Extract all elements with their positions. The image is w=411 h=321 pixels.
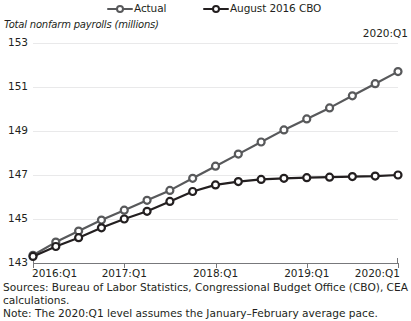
data-point-marker[interactable] [258,176,265,183]
data-point-marker[interactable] [144,208,151,215]
data-point-marker[interactable] [189,188,196,195]
data-point-marker[interactable] [303,174,310,181]
chart-footnotes: Sources: Bureau of Labor Statistics, Con… [3,281,408,321]
data-point-marker[interactable] [121,207,128,214]
data-point-marker[interactable] [326,174,333,181]
sources-line-2: calculations. [3,294,408,307]
sources-line-1: Sources: Bureau of Labor Statistics, Con… [3,281,408,294]
chart-figure: Actual August 2016 CBO Total nonfarm pay… [0,0,411,321]
data-point-marker[interactable] [372,80,379,87]
data-point-marker[interactable] [303,115,310,122]
data-point-marker[interactable] [235,151,242,158]
data-point-marker[interactable] [98,224,105,231]
data-point-marker[interactable] [98,217,105,224]
data-point-marker[interactable] [75,234,82,241]
data-point-marker[interactable] [372,173,379,180]
data-point-marker[interactable] [258,139,265,146]
note-line: Note: The 2020:Q1 level assumes the Janu… [3,307,408,320]
data-point-marker[interactable] [349,92,356,99]
data-point-marker[interactable] [166,198,173,205]
data-point-marker[interactable] [326,104,333,111]
data-point-marker[interactable] [189,175,196,182]
data-point-marker[interactable] [144,197,151,204]
data-point-marker[interactable] [52,243,59,250]
data-point-marker[interactable] [235,178,242,185]
data-point-marker[interactable] [30,253,37,260]
data-point-marker[interactable] [121,216,128,223]
data-point-marker[interactable] [166,187,173,194]
data-point-marker[interactable] [280,175,287,182]
data-point-marker[interactable] [280,126,287,133]
data-point-marker[interactable] [395,68,402,75]
data-point-marker[interactable] [212,163,219,170]
data-point-marker[interactable] [212,181,219,188]
chart-series-layer [0,0,411,271]
data-point-marker[interactable] [395,172,402,179]
data-point-marker[interactable] [349,173,356,180]
